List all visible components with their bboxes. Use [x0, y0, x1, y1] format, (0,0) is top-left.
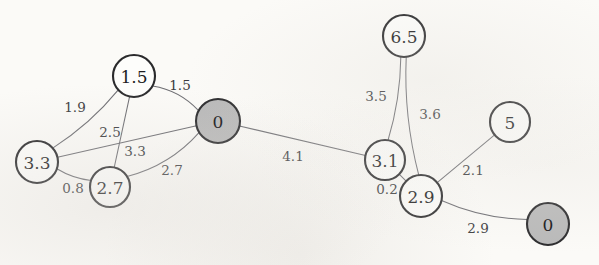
graph-svg: 1.51.92.53.30.82.74.13.53.60.22.12.9 1.5… [0, 0, 599, 265]
graph-node[interactable]: 3.1 [365, 140, 405, 180]
graph-diagram-canvas: 1.51.92.53.30.82.74.13.53.60.22.12.9 1.5… [0, 0, 599, 265]
graph-node[interactable]: 2.7 [90, 167, 130, 207]
edge-weight-label: 0.8 [62, 180, 83, 196]
graph-node[interactable]: 5 [490, 102, 530, 142]
edge-weight-label: 2.1 [462, 162, 483, 178]
graph-node[interactable]: 0 [196, 99, 240, 143]
edge-weight-label: 0.2 [376, 181, 397, 197]
edge-weight-label: 2.5 [99, 124, 120, 140]
edge-weight-label: 2.7 [161, 162, 182, 178]
graph-edge [57, 169, 91, 181]
node-value-label: 2.9 [407, 187, 434, 207]
node-value-label: 2.7 [96, 178, 123, 198]
node-value-label: 0 [213, 112, 224, 132]
node-value-label: 3.3 [23, 153, 50, 173]
edge-weight-label: 2.9 [467, 220, 488, 236]
node-value-label: 0 [543, 215, 554, 235]
graph-edge [406, 57, 419, 175]
edge-weight-label: 1.9 [64, 99, 85, 115]
graph-edge [442, 201, 528, 220]
graph-node[interactable]: 3.3 [16, 141, 58, 183]
edge-weight-label: 4.1 [282, 148, 303, 164]
edge-weight-label: 3.5 [365, 88, 386, 104]
node-value-label: 6.5 [390, 27, 417, 47]
graph-edge [388, 57, 401, 140]
graph-node[interactable]: 6.5 [383, 15, 425, 57]
edge-weight-label: 3.3 [124, 143, 145, 159]
graph-node[interactable]: 1.5 [113, 55, 155, 97]
node-value-label: 5 [505, 113, 516, 133]
edge-weight-label: 1.5 [169, 77, 190, 93]
edge-weight-label: 3.6 [419, 106, 440, 122]
graph-edge [399, 174, 406, 181]
graph-node[interactable]: 0 [527, 203, 569, 245]
node-value-label: 1.5 [120, 67, 147, 87]
node-value-label: 3.1 [371, 151, 398, 171]
graph-node[interactable]: 2.9 [400, 175, 442, 217]
